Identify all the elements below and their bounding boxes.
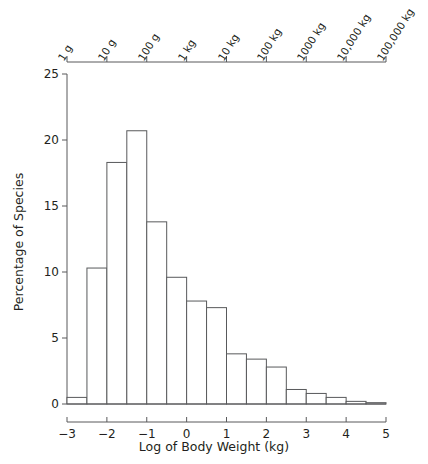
bar-13 <box>326 397 346 404</box>
histogram-bar <box>326 397 346 404</box>
bar-12 <box>306 393 326 404</box>
histogram-bar <box>147 222 167 404</box>
y-tick-label: 10 <box>33 266 59 278</box>
histogram-bar <box>67 397 87 404</box>
histogram-bar <box>187 301 207 404</box>
x-tick-label: 5 <box>371 428 401 440</box>
chart-canvas <box>0 0 428 464</box>
y-tick-label: 20 <box>33 134 59 146</box>
bar-1 <box>87 268 107 404</box>
y-tick-label: 25 <box>33 68 59 80</box>
y-tick-label: 5 <box>33 332 59 344</box>
bar-0 <box>67 397 87 404</box>
x-tick-label: −2 <box>92 428 122 440</box>
x-axis-title: Log of Body Weight (kg) <box>0 441 428 454</box>
y-axis-title: Percentage of Species <box>13 181 26 311</box>
bar-6 <box>187 301 207 404</box>
histogram-bar <box>306 393 326 404</box>
histogram-bar <box>286 389 306 404</box>
x-tick-label: 4 <box>331 428 361 440</box>
histogram-bar <box>107 162 127 404</box>
histogram-bar <box>266 367 286 404</box>
bar-2 <box>107 162 127 404</box>
bar-5 <box>167 277 187 404</box>
bar-11 <box>286 389 306 404</box>
histogram-bar <box>227 354 247 404</box>
bar-10 <box>266 367 286 404</box>
histogram-bar <box>207 308 227 404</box>
bar-4 <box>147 222 167 404</box>
y-tick-label: 0 <box>33 398 59 410</box>
histogram-bar <box>87 268 107 404</box>
histogram-figure: 1 g10 g100 g1 kg10 kg100 kg1000 kg10,000… <box>0 0 428 464</box>
y-tick-label: 15 <box>33 200 59 212</box>
x-tick-label: −3 <box>52 428 82 440</box>
bar-9 <box>246 359 266 404</box>
bar-3 <box>127 131 147 404</box>
bar-7 <box>207 308 227 404</box>
histogram-bar <box>127 131 147 404</box>
histogram-bar <box>246 359 266 404</box>
bar-8 <box>227 354 247 404</box>
x-tick-label: 3 <box>291 428 321 440</box>
histogram-bar <box>167 277 187 404</box>
